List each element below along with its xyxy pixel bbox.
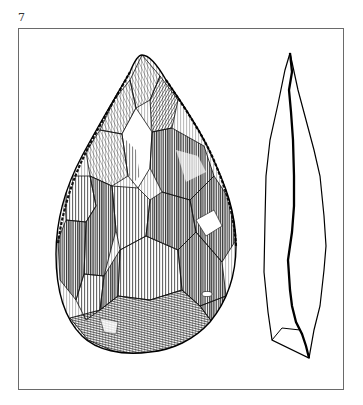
profile-ridge	[288, 53, 309, 358]
face-view	[50, 50, 240, 360]
profile-view	[264, 53, 326, 358]
hand-axe-illustration	[0, 0, 363, 405]
